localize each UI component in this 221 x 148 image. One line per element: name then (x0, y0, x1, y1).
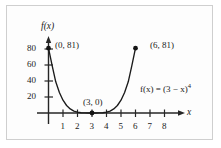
annotation-point-vertex: (3, 0) (83, 98, 103, 107)
y-tick-label-20: 20 (27, 92, 36, 101)
y-tick-label-40: 40 (27, 76, 36, 85)
graph-canvas (0, 0, 221, 148)
figure-container: f(x) x 80 60 40 20 1 2 3 4 5 6 7 8 (0, 8… (0, 0, 221, 148)
equation-body: f(x) = (3 − x) (140, 84, 188, 94)
y-tick-label-80: 80 (27, 44, 36, 53)
equation-label: f(x) = (3 − x)4 (140, 85, 191, 94)
x-tick-label-8: 8 (162, 122, 167, 131)
x-tick-label-4: 4 (104, 122, 109, 131)
y-tick-label-60: 60 (27, 60, 36, 69)
x-tick-label-6: 6 (133, 122, 138, 131)
x-tick-label-1: 1 (61, 122, 66, 131)
equation-exponent: 4 (188, 82, 191, 89)
x-tick-label-5: 5 (119, 122, 124, 131)
y-axis-label: f(x) (41, 22, 54, 32)
point-3-0 (90, 111, 95, 116)
point-0-81 (46, 46, 51, 51)
x-axis-label: x (187, 108, 191, 118)
point-6-81 (133, 46, 138, 51)
x-tick-label-2: 2 (75, 122, 80, 131)
x-tick-label-3: 3 (90, 122, 95, 131)
annotation-point-left: (0, 81) (55, 41, 79, 50)
x-tick-label-7: 7 (148, 122, 153, 131)
annotation-point-right: (6, 81) (150, 41, 174, 50)
